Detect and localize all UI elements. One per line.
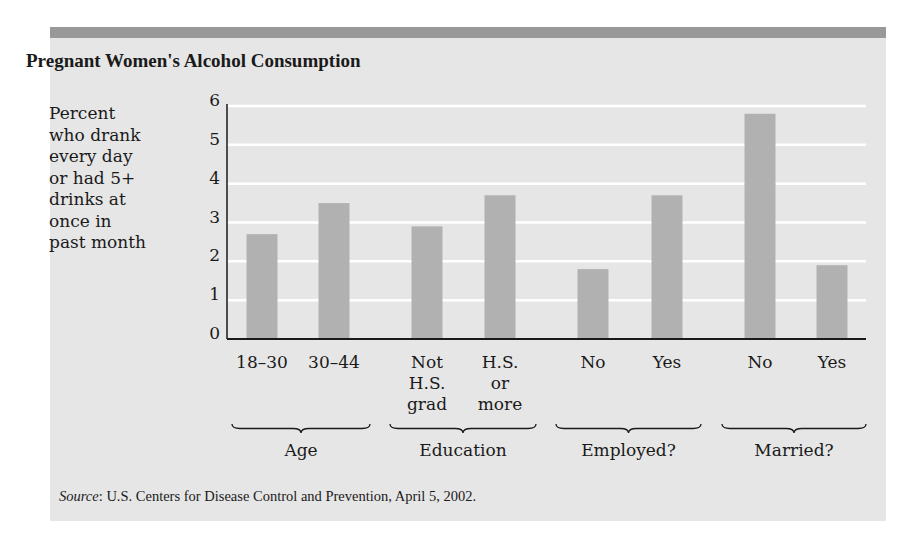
brace xyxy=(232,424,370,433)
source-text: : U.S. Centers for Disease Control and P… xyxy=(99,488,476,504)
x-tick-label: No xyxy=(720,352,800,373)
group-braces xyxy=(232,424,866,433)
bar xyxy=(652,195,683,339)
bar xyxy=(485,195,516,339)
x-tick-label: Yes xyxy=(627,352,707,373)
source-note: Source: U.S. Centers for Disease Control… xyxy=(59,488,476,505)
brace xyxy=(390,424,536,433)
brace xyxy=(722,424,866,433)
y-tick-label: 1 xyxy=(200,284,220,304)
bar xyxy=(247,234,278,339)
x-tick-label: 30–44 xyxy=(294,352,374,373)
y-tick-label: 5 xyxy=(200,129,220,149)
group-label: Employed? xyxy=(549,440,709,460)
source-label: Source xyxy=(59,488,99,504)
y-tick-label: 0 xyxy=(200,323,220,343)
y-tick-label: 3 xyxy=(200,207,220,227)
bar xyxy=(745,114,776,339)
y-tick-label: 6 xyxy=(200,90,220,110)
bar xyxy=(412,226,443,339)
y-tick-label: 4 xyxy=(200,168,220,188)
bars xyxy=(247,114,848,339)
bar-chart xyxy=(0,0,924,559)
group-label: Married? xyxy=(714,440,874,460)
x-tick-label: H.S.ormore xyxy=(460,352,540,415)
y-tick-label: 2 xyxy=(200,245,220,265)
group-label: Age xyxy=(221,440,381,460)
group-label: Education xyxy=(383,440,543,460)
bar xyxy=(578,269,609,339)
brace xyxy=(556,424,701,433)
x-tick-label: NotH.S.grad xyxy=(387,352,467,415)
x-tick-label: Yes xyxy=(792,352,872,373)
x-tick-label: No xyxy=(553,352,633,373)
bar xyxy=(319,203,350,339)
bar xyxy=(817,265,848,339)
x-tick-label: 18–30 xyxy=(222,352,302,373)
